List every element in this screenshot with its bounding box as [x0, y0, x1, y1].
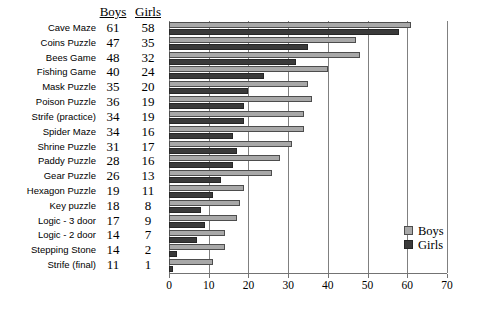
category-label: Hexagon Puzzle: [0, 184, 96, 199]
value-girls: 35: [132, 36, 164, 51]
value-boys: 17: [98, 214, 128, 229]
tick-label-40: 40: [313, 279, 343, 291]
category-label: Cave Maze: [0, 21, 96, 36]
bar-girls: [169, 207, 201, 213]
value-girls: 2: [132, 243, 164, 258]
tick-label-20: 20: [233, 279, 263, 291]
category-label: Fishing Game: [0, 65, 96, 80]
table-row: Fishing Game4024: [0, 65, 168, 80]
table-row: Bees Game4832: [0, 51, 168, 66]
bar-girls: [169, 103, 244, 109]
bar-girls: [169, 133, 233, 139]
tick-label-30: 30: [273, 279, 303, 291]
bar-boys: [169, 96, 312, 102]
table-row: Spider Maze3416: [0, 125, 168, 140]
bar-group: [169, 110, 447, 125]
value-girls: 11: [132, 184, 164, 199]
bar-group: [169, 95, 447, 110]
value-boys: 14: [98, 228, 128, 243]
table-row: Shrine Puzzle3117: [0, 140, 168, 155]
bar-boys: [169, 215, 237, 221]
value-boys: 35: [98, 80, 128, 95]
x-axis-line: [169, 273, 447, 274]
bar-group: [169, 125, 447, 140]
category-label: Key puzzle: [0, 199, 96, 214]
bar-boys: [169, 66, 328, 72]
column-header-girls: Girls: [132, 4, 164, 19]
chart-legend: Boys Girls: [404, 224, 466, 254]
value-boys: 11: [98, 258, 128, 273]
bar-boys: [169, 230, 225, 236]
bar-group: [169, 154, 447, 169]
value-boys: 19: [98, 184, 128, 199]
category-label: Gear Puzzle: [0, 169, 96, 184]
tick-label-0: 0: [154, 279, 184, 291]
tick-30: [288, 274, 289, 278]
bar-group: [169, 21, 447, 36]
category-label: Poison Puzzle: [0, 95, 96, 110]
value-girls: 32: [132, 51, 164, 66]
table-row: Stepping Stone142: [0, 243, 168, 258]
value-girls: 1: [132, 258, 164, 273]
value-girls: 8: [132, 199, 164, 214]
value-boys: 18: [98, 199, 128, 214]
table-row: Coins Puzzle4735: [0, 36, 168, 51]
legend-swatch-boys-icon: [404, 226, 413, 235]
legend-swatch-girls-icon: [404, 240, 413, 249]
bar-girls: [169, 222, 205, 228]
value-girls: 16: [132, 125, 164, 140]
table-row: Hexagon Puzzle1911: [0, 184, 168, 199]
bar-girls: [169, 73, 264, 79]
value-boys: 14: [98, 243, 128, 258]
bar-group: [169, 80, 447, 95]
table-row: Cave Maze6158: [0, 21, 168, 36]
bar-girls: [169, 29, 399, 35]
bar-girls: [169, 118, 244, 124]
value-boys: 48: [98, 51, 128, 66]
bar-girls: [169, 266, 173, 272]
value-boys: 26: [98, 169, 128, 184]
tick-label-50: 50: [353, 279, 383, 291]
value-girls: 13: [132, 169, 164, 184]
table-row: Logic - 2 door147: [0, 228, 168, 243]
bar-group: [169, 199, 447, 214]
bar-group: [169, 65, 447, 80]
value-girls: 7: [132, 228, 164, 243]
tick-60: [407, 274, 408, 278]
category-label: Coins Puzzle: [0, 36, 96, 51]
category-label: Spider Maze: [0, 125, 96, 140]
column-header-boys: Boys: [98, 4, 128, 19]
tick-40: [328, 274, 329, 278]
table-row: Logic - 3 door179: [0, 214, 168, 229]
tick-label-10: 10: [194, 279, 224, 291]
legend-label-girls: Girls: [418, 238, 443, 252]
value-girls: 9: [132, 214, 164, 229]
tick-label-60: 60: [392, 279, 422, 291]
bar-group: [169, 169, 447, 184]
bar-boys: [169, 126, 304, 132]
bar-boys: [169, 111, 304, 117]
bar-boys: [169, 22, 411, 28]
legend-label-boys: Boys: [418, 224, 444, 238]
bar-boys: [169, 155, 280, 161]
value-column-headers: Boys Girls: [0, 4, 168, 20]
value-girls: 24: [132, 65, 164, 80]
bar-boys: [169, 52, 360, 58]
bar-group: [169, 140, 447, 155]
value-girls: 58: [132, 21, 164, 36]
category-label: Stepping Stone: [0, 243, 96, 258]
bar-boys: [169, 141, 292, 147]
bar-girls: [169, 237, 197, 243]
bar-boys: [169, 259, 213, 265]
legend-item-boys: Boys: [404, 224, 466, 238]
table-row: Mask Puzzle3520: [0, 80, 168, 95]
bar-girls: [169, 59, 296, 65]
value-girls: 19: [132, 110, 164, 125]
bar-boys: [169, 200, 240, 206]
value-boys: 61: [98, 21, 128, 36]
bar-group: [169, 51, 447, 66]
bar-girls: [169, 148, 237, 154]
category-label: Logic - 3 door: [0, 214, 96, 229]
table-row: Poison Puzzle3619: [0, 95, 168, 110]
tick-50: [368, 274, 369, 278]
